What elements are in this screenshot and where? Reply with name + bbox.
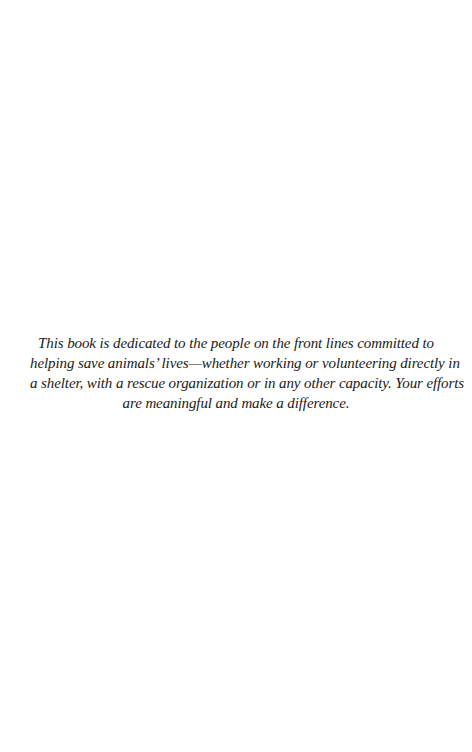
dedication-line: are meaningful and make a difference. [30,393,442,413]
dedication-line: This book is dedicated to the people on … [30,333,442,353]
dedication-text: This book is dedicated to the people on … [30,333,442,413]
dedication-line: a shelter, with a rescue organization or… [30,373,442,393]
dedication-line: helping save animals’ lives—whether work… [30,353,442,373]
book-page: This book is dedicated to the people on … [0,0,472,752]
